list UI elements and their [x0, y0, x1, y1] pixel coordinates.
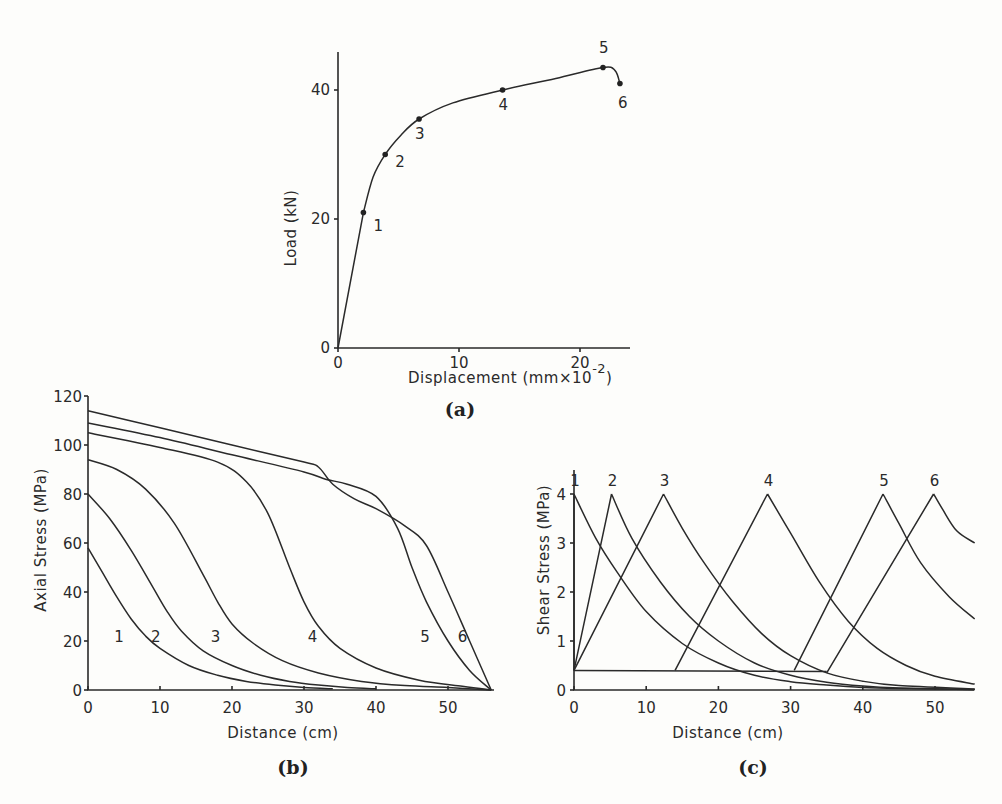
y-tick-label: 20 [63, 633, 82, 651]
chart-c-peak-labels: 123456 [570, 472, 939, 490]
axial-stress-curve-2 [88, 494, 376, 689]
data-point-5 [600, 65, 606, 71]
curve-label-3: 3 [211, 628, 221, 646]
chart-a-load-curve [338, 67, 620, 348]
y-tick-label: 4 [556, 486, 566, 504]
peak-label-2: 2 [608, 472, 618, 490]
point-label-6: 6 [618, 94, 628, 112]
figure-canvas: 0102002040 123456 Load (kN) Displacement… [0, 0, 1002, 804]
chart-b-caption: (b) [277, 756, 308, 778]
chart-a-ylabel: Load (kN) [282, 190, 300, 267]
axial-stress-curve-5 [88, 423, 491, 690]
data-point-6 [617, 81, 623, 87]
axial-stress-curve-3 [88, 460, 491, 690]
x-tick-label: 0 [569, 699, 579, 717]
y-tick-label: 2 [556, 584, 566, 602]
x-tick-label: 30 [781, 699, 800, 717]
point-label-5: 5 [599, 39, 609, 57]
shear-baseline [574, 670, 827, 671]
point-label-3: 3 [415, 125, 425, 143]
x-tick-label: 50 [438, 699, 457, 717]
y-tick-label: 20 [311, 210, 330, 228]
chart-c-xlabel: Distance (cm) [672, 724, 783, 742]
shear-stress-curve-1 [574, 494, 975, 690]
peak-label-6: 6 [930, 472, 940, 490]
y-tick-label: 120 [53, 388, 82, 406]
data-point-3 [416, 116, 422, 122]
chart-a-axes [338, 52, 630, 348]
chart-a-caption: (a) [445, 398, 475, 420]
shear-stress-curve-2 [574, 494, 975, 690]
y-tick-label: 0 [556, 682, 566, 700]
chart-c-caption: (c) [738, 756, 768, 778]
x-tick-label: 40 [366, 699, 385, 717]
y-tick-label: 3 [556, 535, 566, 553]
chart-b-curves [88, 411, 491, 690]
curve-label-5: 5 [420, 628, 430, 646]
chart-b-axes [88, 396, 494, 690]
y-tick-label: 1 [556, 633, 566, 651]
x-tick-label: 20 [709, 699, 728, 717]
y-tick-label: 60 [63, 535, 82, 553]
x-tick-label: 10 [150, 699, 169, 717]
axial-stress-curve-6 [88, 411, 491, 690]
x-tick-label: 20 [222, 699, 241, 717]
chart-b-curve-labels: 123456 [114, 628, 467, 646]
chart-a-ticks: 0102002040 [311, 81, 590, 372]
shear-stress-curve-4 [675, 494, 975, 684]
peak-label-4: 4 [764, 472, 774, 490]
chart-a: 0102002040 123456 Load (kN) Displacement… [282, 39, 630, 420]
data-point-1 [361, 210, 367, 216]
chart-c-ylabel: Shear Stress (MPa) [535, 485, 553, 635]
chart-c-ticks: 0102030405001234 [556, 486, 944, 717]
x-tick-label: 0 [83, 699, 93, 717]
x-tick-label: 10 [637, 699, 656, 717]
point-label-1: 1 [373, 217, 383, 235]
peak-label-5: 5 [879, 472, 889, 490]
y-tick-label: 40 [311, 81, 330, 99]
chart-c: 0102030405001234 123456 Shear Stress (MP… [535, 470, 975, 778]
peak-label-3: 3 [660, 472, 670, 490]
axial-stress-curve-4 [88, 433, 491, 690]
y-tick-label: 40 [63, 584, 82, 602]
chart-c-axes [574, 470, 974, 690]
point-label-4: 4 [499, 96, 509, 114]
shear-stress-curve-5 [794, 494, 974, 670]
y-tick-label: 0 [72, 682, 82, 700]
shear-stress-curve-6 [827, 494, 975, 673]
y-tick-label: 100 [53, 437, 82, 455]
chart-b-xlabel: Distance (cm) [227, 724, 338, 742]
chart-a-points: 123456 [361, 39, 628, 234]
curve-label-6: 6 [458, 628, 468, 646]
shear-stress-curve-3 [574, 494, 975, 689]
data-point-2 [382, 152, 388, 158]
curve-label-2: 2 [151, 628, 161, 646]
x-tick-label: 30 [294, 699, 313, 717]
curve-label-1: 1 [114, 628, 124, 646]
axial-stress-curve-1 [88, 548, 333, 689]
curve-label-4: 4 [308, 628, 318, 646]
chart-c-curves [574, 494, 975, 690]
chart-b: 01020304050020406080100120 123456 Axial … [32, 388, 494, 778]
x-tick-label: 50 [925, 699, 944, 717]
peak-label-1: 1 [570, 472, 580, 490]
x-tick-label: 0 [333, 354, 343, 372]
point-label-2: 2 [395, 153, 405, 171]
y-tick-label: 0 [320, 339, 330, 357]
data-point-4 [500, 87, 506, 93]
chart-b-ylabel: Axial Stress (MPa) [32, 468, 50, 612]
x-tick-label: 40 [853, 699, 872, 717]
y-tick-label: 80 [63, 486, 82, 504]
